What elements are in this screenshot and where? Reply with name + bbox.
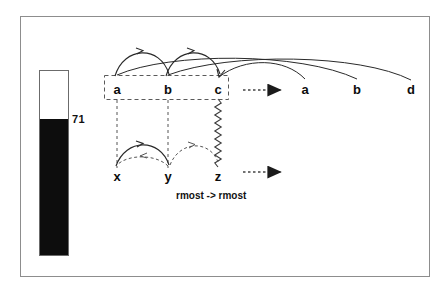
target-label-b: b (347, 82, 367, 97)
node-label-b: b (158, 82, 178, 97)
node-label-z: z (208, 169, 228, 184)
diagram-caption: rmost -> rmost (176, 190, 246, 201)
flow-arrows (243, 90, 281, 172)
arc-y-to-x-dashed (117, 157, 168, 166)
bottom-arcs (116, 141, 218, 166)
top-long-arcs (117, 58, 411, 80)
arc-y-to-z-dashed (170, 146, 218, 165)
target-label-d: d (401, 82, 421, 97)
diagram-svg (0, 0, 448, 293)
node-label-a: a (107, 82, 127, 97)
arc-c-to-right-a (219, 63, 305, 79)
vertical-connectors (117, 99, 221, 168)
figure-canvas: 71 (0, 0, 448, 293)
target-label-a: a (295, 82, 315, 97)
node-label-y: y (158, 169, 178, 184)
arc-y-to-z-arrowhead (188, 142, 195, 148)
node-label-c: c (208, 82, 228, 97)
node-label-x: x (107, 169, 127, 184)
